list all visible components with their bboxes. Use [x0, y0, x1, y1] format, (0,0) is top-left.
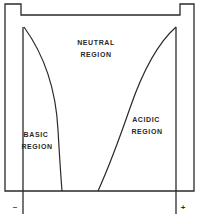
acidic-region-label-line1: ACIDIC	[132, 116, 160, 123]
basic-region-label-line1: BASIC	[24, 131, 49, 138]
basic-region-label-line2: REGION	[21, 143, 52, 150]
vessel-outline	[5, 4, 194, 191]
neutral-region-label-line1: NEUTRAL	[77, 39, 115, 46]
negative-sign: –	[13, 202, 18, 211]
basic-boundary-curve	[24, 27, 62, 191]
acidic-region-label-line2: REGION	[131, 128, 162, 135]
positive-sign: +	[181, 203, 186, 212]
electrolysis-cell-diagram: NEUTRAL REGION BASIC REGION ACIDIC REGIO…	[0, 0, 199, 218]
neutral-region-label-line2: REGION	[80, 51, 111, 58]
